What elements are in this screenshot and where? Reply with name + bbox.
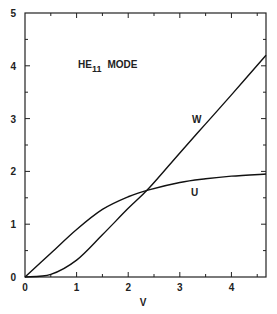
x-axis-label: V — [140, 297, 147, 308]
x-tick-label: 1 — [74, 282, 80, 293]
y-tick-label: 4 — [10, 61, 16, 72]
x-tick-label: 0 — [22, 282, 28, 293]
title-main: HE — [78, 59, 92, 70]
x-tick-label: 3 — [177, 282, 183, 293]
series-label-w: W — [192, 114, 202, 125]
x-tick-labels: 01234 — [22, 282, 234, 293]
chart-title: HE11MODE — [78, 59, 138, 74]
y-tick-labels: 012345 — [10, 8, 16, 283]
y-tick-label: 0 — [10, 272, 16, 283]
x-tick-label: 2 — [125, 282, 131, 293]
y-tick-label: 5 — [10, 8, 16, 19]
title-suffix: MODE — [107, 59, 137, 70]
x-tick-label: 4 — [229, 282, 235, 293]
plot-frame — [25, 13, 266, 277]
y-tick-label: 2 — [10, 166, 16, 177]
series-line-u — [25, 174, 266, 277]
chart: 01234 012345 V HE11MODE W U — [0, 0, 277, 314]
title-sub: 11 — [92, 64, 102, 74]
axis-ticks — [25, 13, 266, 277]
y-tick-label: 3 — [10, 114, 16, 125]
y-tick-label: 1 — [10, 219, 16, 230]
series-label-u: U — [191, 187, 198, 198]
